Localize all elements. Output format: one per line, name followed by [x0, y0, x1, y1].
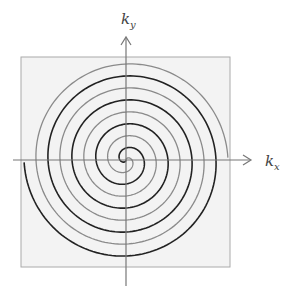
- kx-label: kx: [265, 152, 280, 172]
- ky-label: ky: [121, 10, 136, 30]
- spiral-kspace-diagram: ky kx: [0, 0, 293, 292]
